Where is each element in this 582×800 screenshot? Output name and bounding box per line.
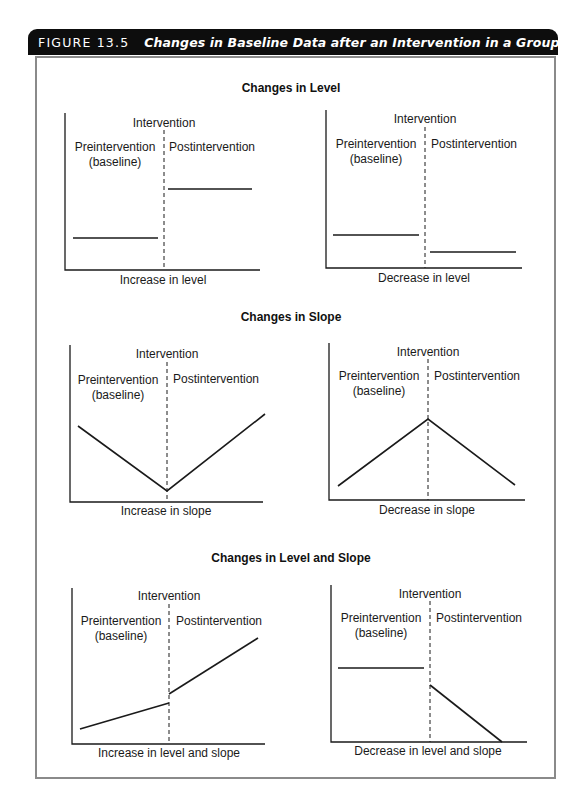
data-series [338, 419, 515, 486]
intervention-label: Intervention [138, 589, 201, 603]
charts-canvas: Intervention Preintervention (baseline) … [0, 0, 582, 800]
post-label: Postintervention [431, 137, 517, 151]
intervention-label: Intervention [136, 347, 199, 361]
x-axis-label: Decrease in slope [379, 503, 475, 517]
x-axis-label: Decrease in level and slope [354, 744, 502, 758]
intervention-label: Intervention [133, 116, 196, 130]
post-label: Postintervention [176, 614, 262, 628]
x-axis-label: Increase in level and slope [98, 746, 240, 760]
axes [70, 345, 263, 502]
baseline-label: (baseline) [355, 626, 408, 640]
baseline-label: (baseline) [353, 384, 406, 398]
x-axis-label: Decrease in level [378, 271, 470, 285]
post-label: Postintervention [434, 369, 520, 383]
axes [331, 585, 527, 742]
pre-label: Preintervention [75, 140, 156, 154]
chart-decrease-in-slope [329, 343, 525, 500]
baseline-label: (baseline) [95, 629, 148, 643]
baseline-label: (baseline) [89, 155, 142, 169]
intervention-label: Intervention [397, 345, 460, 359]
chart-increase-in-level-and-slope [72, 588, 265, 744]
data-series [78, 414, 265, 491]
post-label: Postintervention [169, 140, 255, 154]
axes [329, 343, 525, 500]
pre-label: Preintervention [341, 611, 422, 625]
post-label: Postintervention [173, 372, 259, 386]
pre-label: Preintervention [339, 369, 420, 383]
chart-decrease-in-level-and-slope [331, 585, 527, 742]
intervention-label: Intervention [394, 112, 457, 126]
axes [65, 113, 260, 270]
pre-label: Preintervention [81, 614, 162, 628]
baseline-label: (baseline) [92, 388, 145, 402]
x-axis-label: Increase in slope [121, 504, 212, 518]
intervention-label: Intervention [399, 587, 462, 601]
pre-series [80, 703, 169, 729]
post-label: Postintervention [436, 611, 522, 625]
chart-increase-in-level [65, 113, 260, 270]
axes [326, 110, 522, 268]
x-axis-label: Increase in level [120, 273, 207, 287]
pre-label: Preintervention [336, 137, 417, 151]
chart-increase-in-slope [70, 345, 265, 502]
chart-decrease-in-level [326, 110, 522, 268]
post-series [169, 638, 258, 694]
post-series [430, 685, 502, 742]
baseline-label: (baseline) [350, 152, 403, 166]
pre-label: Preintervention [78, 373, 159, 387]
